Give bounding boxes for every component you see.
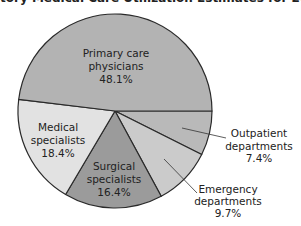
label-value: 16.4% <box>97 186 130 198</box>
label-line: specialists <box>87 173 142 185</box>
label-value: 7.4% <box>246 152 273 164</box>
label-value: 9.7% <box>215 207 242 219</box>
label-line: Emergency <box>198 183 257 195</box>
label-line: Surgical <box>93 160 135 172</box>
label-value: 48.1% <box>99 73 132 85</box>
label-line: Medical <box>38 121 78 133</box>
label-line: Primary care <box>83 47 150 59</box>
label-emergency-departments: Emergency departments 9.7% <box>194 183 262 219</box>
label-line: physicians <box>88 60 143 72</box>
label-outpatient-departments: Outpatient departments 7.4% <box>225 127 293 164</box>
label-value: 18.4% <box>41 147 74 159</box>
label-line: departments <box>225 140 293 152</box>
label-line: specialists <box>31 134 86 146</box>
label-line: Outpatient <box>231 127 287 139</box>
label-line: departments <box>194 195 262 207</box>
pie-chart: Primary care physicians 48.1% Medical sp… <box>0 0 301 226</box>
